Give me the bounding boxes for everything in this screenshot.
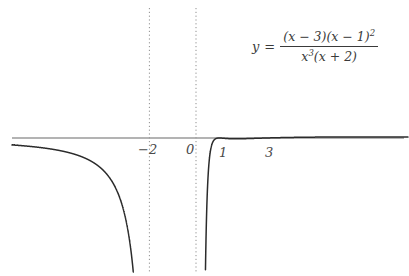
fraction-bar — [280, 46, 378, 47]
equation-fraction: (x − 3)(x − 1)2 x3(x + 2) — [280, 28, 378, 65]
curve-branch-right — [205, 137, 408, 270]
denominator-factor: (x + 2) — [314, 49, 357, 64]
equation-lhs: y — [252, 39, 259, 54]
equation-annotation: y = (x − 3)(x − 1)2 x3(x + 2) — [252, 28, 378, 65]
tick-label-neg-two: −2 — [138, 143, 157, 156]
equation-denominator: x3(x + 2) — [298, 48, 360, 65]
tick-label-one: 1 — [219, 146, 227, 159]
function-graph-figure: −2 0 1 3 y = (x − 3)(x − 1)2 x3(x + 2) — [0, 0, 409, 276]
curve-group — [12, 137, 408, 272]
tick-label-zero: 0 — [186, 143, 194, 156]
equation-equals-sign: = — [264, 39, 275, 54]
numerator-factors: (x − 3)(x − 1) — [283, 29, 369, 44]
equation-numerator: (x − 3)(x − 1)2 — [280, 28, 378, 45]
curve-branch-far-left — [12, 145, 133, 272]
numerator-exponent: 2 — [370, 28, 375, 38]
asymptote-group — [149, 8, 196, 272]
tick-label-three: 3 — [265, 146, 273, 159]
